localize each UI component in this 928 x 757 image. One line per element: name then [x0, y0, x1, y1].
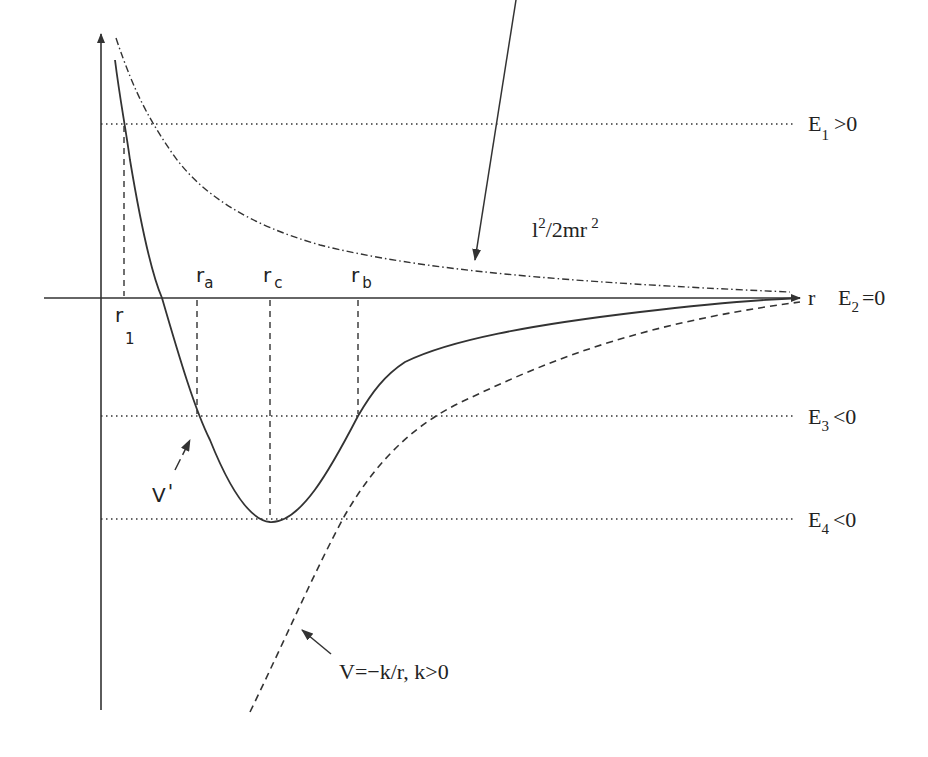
effective-potential-label: V': [152, 479, 173, 507]
centrifugal-label: l2/2mr2: [532, 215, 599, 242]
centrifugal-annotation: l2/2mr2: [475, 0, 599, 260]
effective-potential-curve: [115, 60, 800, 522]
effective-potential-annotation: V': [152, 440, 190, 507]
coulomb-potential-label: V=−k/r, k>0: [339, 659, 449, 684]
energy-levels: E1>0 E2=0 E3<0 E4<0: [101, 111, 885, 537]
energy-level-e1-label: E1>0: [808, 111, 857, 143]
effective-pointer-arrow: [175, 440, 190, 470]
centrifugal-curve: [116, 38, 790, 292]
x-axis-label: r: [808, 285, 816, 310]
radius-rc-label: rc: [263, 263, 282, 292]
centrifugal-pointer-arrow: [475, 0, 516, 260]
energy-level-e3-label: E3<0: [808, 404, 856, 434]
radius-r1-label: r 1: [115, 303, 135, 348]
coulomb-annotation: V=−k/r, k>0: [302, 630, 449, 684]
radius-ra-label: ra: [196, 263, 213, 292]
coulomb-potential-curve: [250, 302, 800, 712]
potential-energy-diagram: r E1>0 E2=0 E3<0 E4<0 r 1 ra r: [0, 0, 928, 757]
coulomb-pointer-arrow: [302, 630, 331, 654]
radius-rb-label: rb: [351, 263, 372, 292]
energy-level-e4-label: E4<0: [808, 507, 856, 537]
turning-points: r 1 ra rc rb: [115, 126, 372, 518]
energy-level-e2-label: E2=0: [838, 285, 885, 315]
